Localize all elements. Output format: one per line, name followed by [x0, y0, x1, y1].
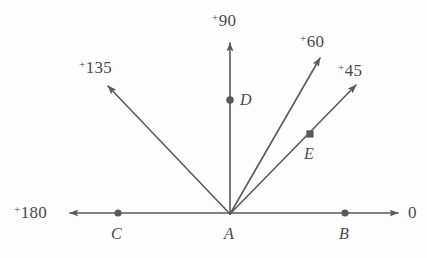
point-D: [226, 96, 234, 104]
deg-0: 0: [408, 204, 417, 221]
label-A: A: [224, 226, 234, 242]
deg-135: +135: [79, 59, 112, 76]
deg-180-value: 180: [21, 203, 47, 222]
point-B: [341, 209, 348, 216]
deg-45-value: 45: [345, 61, 362, 80]
deg-60-value: 60: [307, 32, 324, 51]
label-C: C: [111, 226, 122, 242]
deg-60: +60: [300, 33, 324, 50]
deg-0-value: 0: [408, 203, 417, 222]
label-B: B: [339, 226, 349, 242]
deg-135-sign: +: [79, 58, 85, 70]
angle-ray-diagram: +180+135+90+60+450 ABCDE: [0, 0, 427, 258]
deg-90-sign: +: [212, 11, 218, 23]
diagram-canvas: [0, 0, 427, 258]
deg-180: +180: [14, 204, 47, 221]
deg-135-value: 135: [86, 58, 112, 77]
deg-45: +45: [338, 62, 362, 79]
label-D: D: [240, 92, 252, 108]
deg-45-sign: +: [338, 61, 344, 73]
label-E: E: [304, 146, 314, 162]
point-E: [306, 130, 313, 137]
deg-90: +90: [212, 12, 236, 29]
deg-180-sign: +: [14, 203, 20, 215]
deg-60-sign: +: [300, 32, 306, 44]
point-C: [114, 209, 121, 216]
deg-90-value: 90: [219, 11, 236, 30]
ray-135: [108, 86, 230, 214]
